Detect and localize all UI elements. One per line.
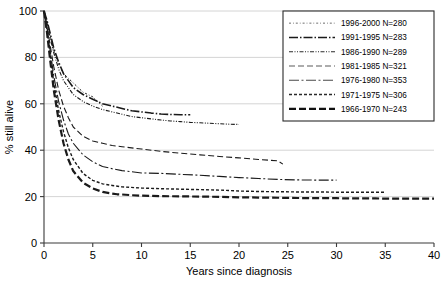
- x-tick-label-25: 25: [282, 249, 294, 261]
- x-tick-label-10: 10: [135, 249, 147, 261]
- legend-label-1971-1975: 1971-1975 N=306: [341, 91, 407, 100]
- legend-label-1976-1980: 1976-1980 N=353: [341, 76, 407, 85]
- y-tick-label-0: 0: [31, 237, 37, 249]
- x-tick-label-15: 15: [184, 249, 196, 261]
- chart-figure: 0204060801000510152025303540Years since …: [0, 0, 443, 288]
- x-tick-label-20: 20: [233, 249, 245, 261]
- legend-label-1996-2000: 1996-2000 N=280: [341, 19, 407, 28]
- legend-label-1986-1990: 1986-1990 N=289: [341, 48, 407, 57]
- legend-label-1991-1995: 1991-1995 N=283: [341, 33, 407, 42]
- y-tick-label-20: 20: [25, 191, 37, 203]
- curve-1981-1985: [44, 11, 283, 164]
- x-tick-label-40: 40: [428, 249, 440, 261]
- legend-label-1981-1985: 1981-1985 N=321: [341, 62, 407, 71]
- curve-1986-1990: [44, 11, 239, 124]
- curve-1991-1995: [44, 11, 190, 115]
- x-tick-label-5: 5: [90, 249, 96, 261]
- survival-chart: 0204060801000510152025303540Years since …: [0, 0, 443, 288]
- y-tick-label-40: 40: [25, 144, 37, 156]
- x-tick-label-35: 35: [379, 249, 391, 261]
- x-tick-label-30: 30: [330, 249, 342, 261]
- x-axis-title: Years since diagnosis: [186, 265, 292, 277]
- legend-label-1966-1970: 1966-1970 N=243: [341, 105, 407, 114]
- y-tick-label-80: 80: [25, 51, 37, 63]
- y-tick-label-100: 100: [19, 5, 37, 17]
- y-tick-label-60: 60: [25, 98, 37, 110]
- y-axis-title: % still alive: [3, 100, 15, 154]
- cropped-caption-artifact: [0, 281, 443, 288]
- x-tick-label-0: 0: [41, 249, 47, 261]
